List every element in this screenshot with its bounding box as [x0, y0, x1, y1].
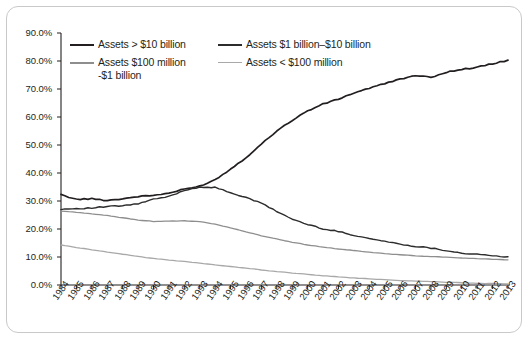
y-tick-label: 70.0% — [8, 83, 52, 94]
legend-item-assets-lt-100-million: Assets < $100 million — [218, 56, 342, 69]
legend-row-1: Assets > $10 billion Assets $1 billion–$… — [70, 38, 400, 51]
y-tick-label: 0.0% — [8, 279, 52, 290]
legend-label-2: Assets $1 billion–$10 billion — [246, 38, 371, 51]
chart-legend: Assets > $10 billion Assets $1 billion–$… — [70, 38, 400, 87]
legend-label-4: Assets < $100 million — [246, 56, 342, 69]
legend-line-swatch-icon — [218, 44, 242, 46]
legend-item-assets-1-to-10-billion: Assets $1 billion–$10 billion — [218, 38, 371, 51]
y-tick-label: 90.0% — [8, 27, 52, 38]
chart-figure: 0.0%10.0%20.0%30.0%40.0%50.0%60.0%70.0%8… — [0, 0, 528, 339]
legend-line-swatch-icon — [218, 62, 242, 63]
y-tick-label: 20.0% — [8, 223, 52, 234]
legend-row-2: Assets $100 million-$1 billion Assets < … — [70, 56, 400, 82]
series-line-3 — [61, 245, 508, 284]
legend-line-swatch-icon — [70, 44, 94, 46]
legend-label-1: Assets > $10 billion — [98, 38, 186, 51]
y-tick-label: 60.0% — [8, 111, 52, 122]
legend-item-assets-100m-to-1b: Assets $100 million-$1 billion — [70, 56, 218, 82]
series-line-2 — [61, 211, 508, 260]
y-tick-label: 80.0% — [8, 55, 52, 66]
legend-label-3-line2: -$1 billion — [98, 69, 141, 81]
legend-label-3-line1: Assets $100 million — [98, 56, 186, 68]
legend-label-3: Assets $100 million-$1 billion — [98, 56, 186, 82]
legend-line-swatch-icon — [70, 62, 94, 64]
legend-item-assets-gt-10-billion: Assets > $10 billion — [70, 38, 218, 51]
y-tick-label: 40.0% — [8, 167, 52, 178]
y-tick-label: 30.0% — [8, 195, 52, 206]
y-tick-label: 50.0% — [8, 139, 52, 150]
y-tick-label: 10.0% — [8, 251, 52, 262]
